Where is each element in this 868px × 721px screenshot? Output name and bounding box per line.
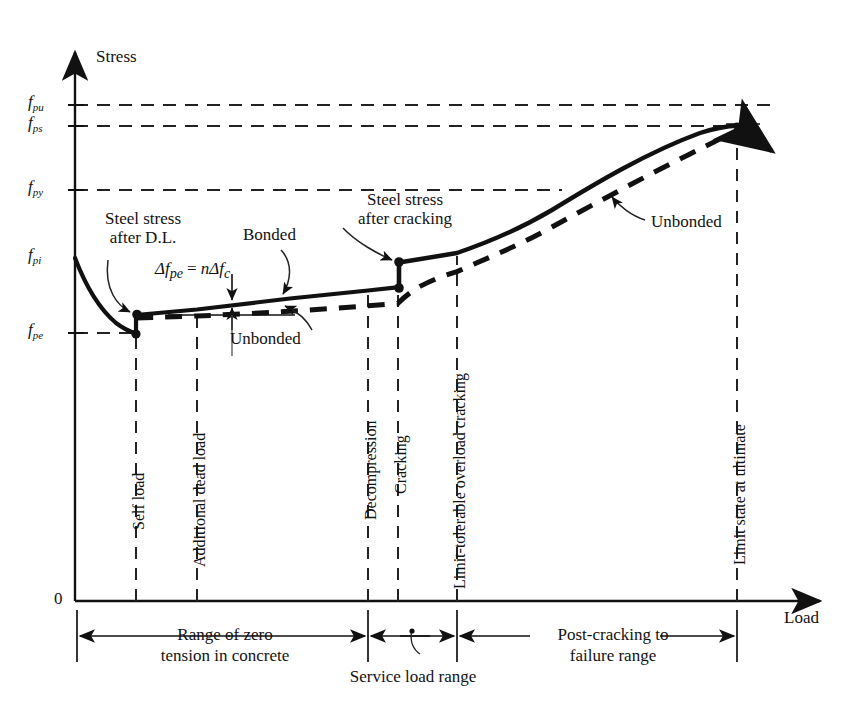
leader-bonded <box>281 250 290 294</box>
leader-service-load-range <box>411 630 420 654</box>
fpu-sub: pu <box>33 101 44 113</box>
node-pre-cracking <box>394 283 404 293</box>
range-caption-zero-tension: Range of zero tension in concrete <box>140 624 310 666</box>
formula-sub2: c <box>224 265 230 281</box>
event-label-decompression: Decompression <box>362 420 380 520</box>
node-after-dead-load <box>132 310 142 320</box>
event-label-additional-dead-load: Additional dead load <box>191 433 209 567</box>
y-tick-label-fpe: fpe <box>28 320 43 341</box>
fpy-sub: py <box>33 186 43 198</box>
leader-unbonded-right <box>612 197 645 220</box>
annotation-unbonded-left: Unbonded <box>230 329 301 348</box>
annotation-steel-stress-after-dl-line1: Steel stress <box>83 209 203 228</box>
delta-symbol-1: Δ <box>155 259 165 278</box>
leader-steel-stress-after-dl <box>107 260 130 312</box>
range-caption-post-cracking: Post-cracking to failure range <box>528 624 698 666</box>
leader-service-dot <box>409 628 414 633</box>
annotation-steel-stress-after-cracking: Steel stress after cracking <box>331 190 479 228</box>
range-post-cracking-line1: Post-cracking to <box>528 624 698 645</box>
curve-bonded-initial-relaxation <box>75 258 136 334</box>
range-zero-tension-line2: tension in concrete <box>140 645 310 666</box>
delta-symbol-2: Δ <box>209 259 219 278</box>
y-tick-label-fpu: fpu <box>28 92 44 113</box>
origin-label: 0 <box>54 589 63 609</box>
event-label-limit-tolerable-overload-cracking: Limit-tolerable overload cracking <box>451 373 469 589</box>
formula-sub1: pe <box>170 265 183 281</box>
node-fpe <box>131 329 140 338</box>
range-service-load-line1: Service load range <box>333 666 493 687</box>
stress-load-diagram <box>0 0 868 721</box>
annotation-delta-fpe-formula: Δfpe=nΔfc <box>155 259 230 282</box>
event-label-limit-state-at-ultimate: Limit state at ultimate <box>731 424 749 565</box>
event-label-cracking: Cracking <box>392 435 410 494</box>
annotation-unbonded-right: Unbonded <box>651 212 722 231</box>
event-label-self-load: Self load <box>130 473 148 530</box>
range-zero-tension-line1: Range of zero <box>140 624 310 645</box>
leader-steel-stress-after-cracking <box>343 228 392 260</box>
annotation-steel-stress-after-dl-line2: after D.L. <box>83 228 203 247</box>
annotation-steel-stress-after-cracking-line1: Steel stress <box>331 190 479 209</box>
range-caption-service-load: Service load range <box>333 666 493 687</box>
fps-sub: ps <box>33 122 43 134</box>
formula-equals: = <box>183 259 201 278</box>
y-tick-label-fpi: fpi <box>28 245 41 266</box>
x-axis-label: Load <box>784 608 819 628</box>
y-tick-label-fpy: fpy <box>28 177 43 198</box>
diagram-canvas: Stress Load 0 fpu fps fpy fpi fpe Steel … <box>0 0 868 721</box>
annotation-steel-stress-after-dl: Steel stress after D.L. <box>83 209 203 247</box>
curve-bonded-descending-branch <box>737 126 772 151</box>
formula-n: n <box>201 259 210 278</box>
annotation-steel-stress-after-cracking-line2: after cracking <box>331 209 479 228</box>
y-axis-label: Stress <box>96 47 137 67</box>
node-after-cracking <box>394 257 404 267</box>
annotation-bonded: Bonded <box>243 225 296 244</box>
fpi-sub: pi <box>33 254 42 266</box>
range-post-cracking-line2: failure range <box>528 645 698 666</box>
axis-group <box>75 52 820 601</box>
y-tick-label-fps: fps <box>28 113 43 134</box>
fpe-sub: pe <box>33 329 43 341</box>
